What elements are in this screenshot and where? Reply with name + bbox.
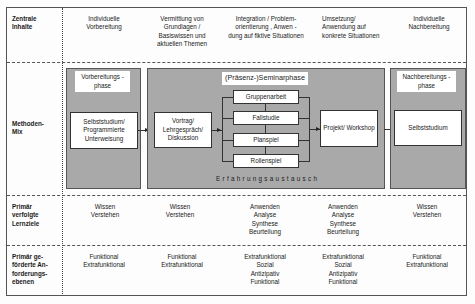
row-label-anforderungsebenen: Primär ge-förderte An-forderungs-ebenen — [12, 253, 48, 287]
lernziel-item: Verstehen — [150, 211, 210, 219]
bracket-line — [298, 140, 309, 141]
row-label-methoden-mix: Methoden-Mix — [12, 120, 46, 137]
anforderung-item: Sozial — [307, 261, 379, 269]
method-box-fallstudie: Fallstudie — [233, 111, 299, 125]
lernziel-item: Beurteilung — [313, 228, 373, 236]
bracket-line — [222, 97, 223, 162]
selbststudium-box: Selbststudium — [394, 110, 462, 146]
lernziel-item: Wissen — [397, 203, 457, 211]
lernziel-cell: Wissen Verstehen — [150, 203, 210, 220]
anforderung-cell: Extrafunktional Sozial Antizipativ Funkt… — [229, 253, 301, 287]
row-divider — [7, 245, 466, 246]
lernziel-item: Beurteilung — [235, 228, 295, 236]
anforderung-cell: Funktional Extrafunktional — [391, 253, 463, 270]
anforderung-item: Extrafunktional — [146, 261, 218, 269]
lernziel-cell: Anwenden Analyse Synthese Beurteilung — [313, 203, 373, 237]
anforderung-item: Extrafunktional — [68, 261, 140, 269]
lernziel-item: Verstehen — [397, 211, 457, 219]
column-divider — [62, 8, 63, 296]
row-divider — [7, 195, 466, 196]
anforderung-item: Funktional — [229, 278, 301, 286]
anforderung-item: Funktional — [307, 278, 379, 286]
lernziel-item: Wissen — [150, 203, 210, 211]
row-label-zentrale-inhalte: Zentrale Inhalte — [12, 15, 46, 32]
projekt-workshop-box: Projekt/ Workshop — [320, 110, 378, 147]
inhalt-cell: Integration / Problem-orientierung , Anw… — [228, 15, 304, 40]
lernziel-item: Synthese — [313, 220, 373, 228]
vortrag-box: Vortrag/ Lehrgespräch/ Diskussion — [154, 112, 212, 148]
bracket-line — [298, 118, 309, 119]
lernziel-item: Anwenden — [313, 203, 373, 211]
erfahrungsaustausch-label: Erfahrungsaustausch — [216, 175, 376, 182]
lernziel-cell: Wissen Verstehen — [75, 203, 135, 220]
anforderung-cell: Funktional Extrafunktional — [68, 253, 140, 270]
bracket-line — [298, 97, 309, 98]
method-box-gruppenarbeit: Gruppenarbeit — [233, 90, 299, 104]
lernziel-item: Analyse — [235, 211, 295, 219]
anforderung-item: Funktional — [391, 253, 463, 261]
anforderung-item: Antizipativ — [307, 270, 379, 278]
arrow-right-icon — [217, 128, 221, 132]
bracket-line — [298, 161, 309, 162]
anforderung-item: Funktional — [146, 253, 218, 261]
inhalt-cell: Individuelle Nachbereitung — [398, 15, 460, 32]
inhalt-cell: Umsetzung/ Anwendung auf konkrete Situat… — [322, 15, 384, 40]
lernziel-item: Synthese — [235, 220, 295, 228]
vorbereitungsphase-title: Vorbereitungs - phase — [75, 71, 130, 92]
anforderung-item: Antizipativ — [229, 270, 301, 278]
method-box-rollenspiel: Rollenspiel — [233, 154, 299, 168]
anforderung-item: Extrafunktional — [229, 253, 301, 261]
bracket-line — [222, 97, 233, 98]
lernziel-cell: Wissen Verstehen — [397, 203, 457, 220]
anforderung-item: Sozial — [229, 261, 301, 269]
anforderung-item: Extrafunktional — [307, 253, 379, 261]
bracket-line — [222, 118, 233, 119]
anforderung-cell: Extrafunktional Sozial Antizipativ Funkt… — [307, 253, 379, 287]
lernziel-item: Analyse — [313, 211, 373, 219]
selbststudium-programmierte-unterweisung-box: Selbststudium/ Programmierte Unterweisun… — [70, 112, 138, 149]
anforderung-item: Funktional — [68, 253, 140, 261]
lernziel-cell: Anwenden Analyse Synthese Beurteilung — [235, 203, 295, 237]
method-box-planspiel: Planspiel — [233, 133, 299, 147]
row-divider — [7, 62, 466, 63]
lernziel-item: Anwenden — [235, 203, 295, 211]
lernziel-item: Verstehen — [75, 211, 135, 219]
bracket-line — [222, 161, 233, 162]
inhalt-cell: Individuelle Vorbereitung — [70, 15, 138, 32]
anforderung-item: Extrafunktional — [391, 261, 463, 269]
anforderung-cell: Funktional Extrafunktional — [146, 253, 218, 270]
inhalt-cell: Vermittlung von Grundlagen / Basiswissen… — [152, 15, 212, 49]
lernziel-item: Wissen — [75, 203, 135, 211]
row-label-lernziele: Primär verfolgte Lernziele — [12, 203, 48, 228]
nachbereitungsphase-title: Nachbereitungs - phase — [397, 71, 456, 92]
bracket-line — [222, 140, 233, 141]
seminarphase-title: (Präsenz-)Seminarphase — [222, 72, 308, 85]
